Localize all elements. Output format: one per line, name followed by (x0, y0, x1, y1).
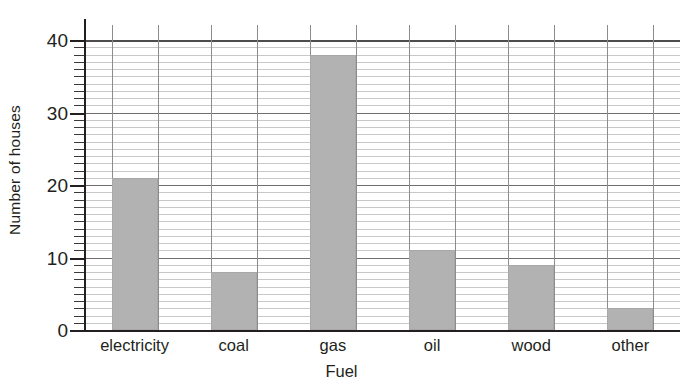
bar-electricity (112, 178, 158, 330)
bar-wood (508, 265, 554, 330)
bar-chart: Number of houses 010203040 electricityco… (0, 0, 683, 392)
bar-other (607, 308, 653, 330)
bar-coal (211, 272, 257, 330)
x-tick-label-gas: gas (320, 336, 347, 356)
x-axis-tick-labels: electricitycoalgasoilwoodother (85, 336, 680, 362)
bars (85, 25, 680, 330)
y-axis-ticks (0, 0, 90, 392)
bar-gas (310, 55, 356, 331)
y-major-tick (70, 113, 85, 115)
x-tick-label-electricity: electricity (100, 336, 169, 356)
y-major-tick (70, 40, 85, 42)
y-major-tick (70, 185, 85, 187)
x-tick-label-other: other (612, 336, 650, 356)
x-tick-label-oil: oil (424, 336, 441, 356)
plot-area (85, 25, 680, 330)
x-tick-label-coal: coal (219, 336, 249, 356)
x-axis-title: Fuel (0, 362, 683, 381)
y-axis-line (84, 19, 86, 332)
bar-oil (409, 250, 455, 330)
x-tick-label-wood: wood (512, 336, 551, 356)
y-major-tick (70, 258, 85, 260)
x-axis-line (78, 330, 680, 332)
